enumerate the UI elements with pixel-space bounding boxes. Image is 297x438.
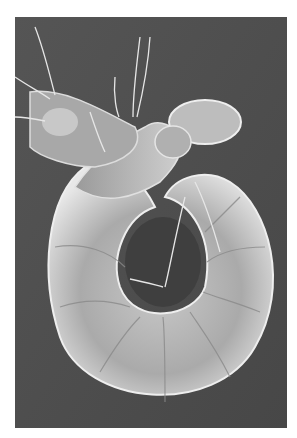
larva-neck-segment bbox=[155, 126, 191, 158]
larva-illustration bbox=[15, 17, 287, 428]
micrograph-photo bbox=[15, 17, 287, 428]
body-hole bbox=[125, 217, 201, 307]
